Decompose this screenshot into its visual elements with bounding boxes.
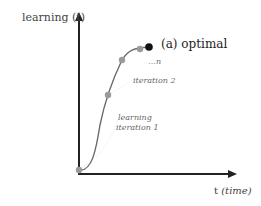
y-axis-label: learning (t) bbox=[22, 11, 85, 24]
guide-line-2 bbox=[108, 80, 132, 95]
start-point bbox=[76, 167, 82, 173]
iteration-n-point bbox=[137, 46, 143, 52]
optimal-label: (a) optimal bbox=[161, 37, 227, 51]
learning-curve bbox=[79, 47, 149, 170]
ellipsis-label: …n bbox=[148, 57, 161, 66]
x-axis-arrow-icon bbox=[228, 170, 237, 178]
iteration-2-point bbox=[119, 57, 125, 63]
iteration-2-label: iteration 2 bbox=[133, 76, 175, 85]
iteration-1-label-line1: learning bbox=[118, 113, 152, 122]
guide-line-1 bbox=[79, 118, 118, 170]
iteration-1-point bbox=[105, 92, 111, 98]
learning-curve-diagram: learning (t) t (time) (a) optimal …n ite… bbox=[0, 0, 261, 206]
x-axis-label-unit: (time) bbox=[221, 185, 251, 196]
x-axis-label-main: t bbox=[214, 185, 218, 196]
iteration-1-label-line2: iteration 1 bbox=[116, 123, 158, 132]
diagram-canvas bbox=[0, 0, 261, 206]
x-axis-label: t (time) bbox=[214, 185, 252, 196]
optimal-point bbox=[145, 43, 153, 51]
